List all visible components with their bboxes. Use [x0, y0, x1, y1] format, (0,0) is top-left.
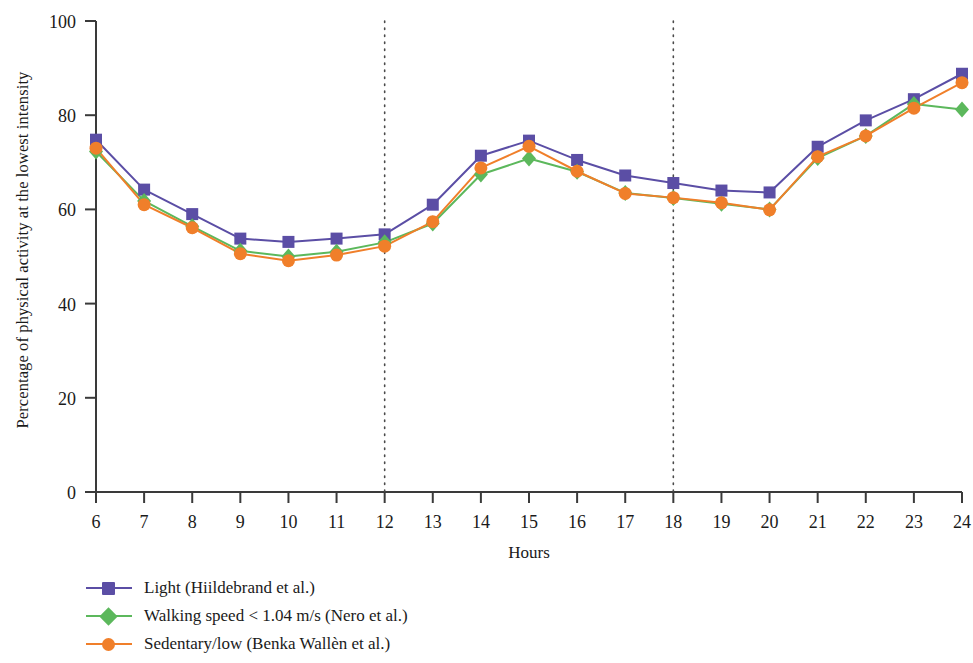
data-point-marker — [378, 240, 391, 253]
legend-marker-square-icon — [86, 578, 132, 598]
y-axis-tick-label: 60 — [58, 200, 76, 220]
data-point-marker — [186, 208, 198, 220]
legend-label: Sedentary/low (Benka Wallèn et al.) — [144, 634, 390, 654]
data-point-marker — [331, 233, 343, 245]
x-axis-tick-label: 12 — [376, 512, 394, 532]
data-point-marker — [907, 102, 920, 115]
data-point-marker — [522, 151, 536, 167]
data-point-marker — [186, 221, 199, 234]
data-point-marker — [330, 249, 343, 262]
x-axis-tick-label: 16 — [568, 512, 586, 532]
legend-marker — [102, 582, 115, 595]
legend-marker-circle-icon — [86, 634, 132, 654]
data-point-marker — [426, 215, 439, 228]
y-axis-tick-label: 80 — [58, 106, 76, 126]
legend-item-0: Light (Hiildebrand et al.) — [86, 574, 408, 602]
data-point-marker — [138, 198, 151, 211]
data-point-marker — [282, 254, 295, 267]
x-axis-tick-label: 13 — [424, 512, 442, 532]
data-point-marker — [619, 187, 632, 200]
x-axis-tick-label: 19 — [712, 512, 730, 532]
x-axis-tick-label: 8 — [188, 512, 197, 532]
data-point-marker — [715, 196, 728, 209]
legend-marker — [102, 638, 115, 651]
y-axis-tick-label: 0 — [67, 483, 76, 503]
data-point-marker — [282, 236, 294, 248]
x-axis-title: Hours — [508, 543, 550, 562]
data-point-marker — [619, 169, 631, 181]
x-axis-tick-label: 14 — [472, 512, 490, 532]
series-line-2 — [96, 83, 962, 261]
data-point-marker — [715, 185, 727, 197]
legend-marker — [99, 607, 117, 625]
x-axis-tick-label: 9 — [236, 512, 245, 532]
y-axis-tick-label: 40 — [58, 295, 76, 315]
x-axis-tick-label: 7 — [140, 512, 149, 532]
data-point-marker — [763, 203, 776, 216]
x-axis-tick-label: 21 — [809, 512, 827, 532]
line-chart-plot: 0204060801006789101112131415161718192021… — [0, 0, 973, 663]
chart-legend: Light (Hiildebrand et al.)Walking speed … — [86, 574, 408, 658]
x-axis-tick-label: 6 — [92, 512, 101, 532]
legend-item-1: Walking speed < 1.04 m/s (Nero et al.) — [86, 602, 408, 630]
x-axis-tick-label: 10 — [279, 512, 297, 532]
data-point-marker — [811, 150, 824, 163]
chart-figure: Percentage of physical activity at the l… — [0, 0, 973, 663]
x-axis-tick-label: 11 — [328, 512, 345, 532]
x-axis-tick-label: 15 — [520, 512, 538, 532]
legend-marker-diamond-icon — [86, 606, 132, 626]
x-axis-tick-label: 24 — [953, 512, 971, 532]
data-point-marker — [764, 186, 776, 198]
data-point-marker — [667, 177, 679, 189]
data-point-marker — [956, 76, 969, 89]
data-point-marker — [234, 233, 246, 245]
x-axis-tick-label: 17 — [616, 512, 634, 532]
legend-label: Light (Hiildebrand et al.) — [144, 578, 315, 598]
x-axis-tick-label: 23 — [905, 512, 923, 532]
data-point-marker — [234, 247, 247, 260]
data-point-marker — [667, 191, 680, 204]
legend-item-2: Sedentary/low (Benka Wallèn et al.) — [86, 630, 408, 658]
y-axis-tick-label: 20 — [58, 389, 76, 409]
data-point-marker — [427, 199, 439, 211]
y-axis-tick-label: 100 — [49, 12, 76, 32]
data-point-marker — [860, 114, 872, 126]
data-point-marker — [571, 165, 584, 178]
legend-label: Walking speed < 1.04 m/s (Nero et al.) — [144, 606, 408, 626]
series-line-1 — [96, 104, 962, 257]
data-point-marker — [90, 142, 103, 155]
data-point-marker — [955, 102, 969, 118]
data-point-marker — [475, 150, 487, 162]
x-axis-tick-label: 22 — [857, 512, 875, 532]
data-point-marker — [523, 140, 536, 153]
x-axis-tick-label: 20 — [761, 512, 779, 532]
data-point-marker — [474, 161, 487, 174]
data-point-marker — [859, 129, 872, 142]
x-axis-tick-label: 18 — [664, 512, 682, 532]
